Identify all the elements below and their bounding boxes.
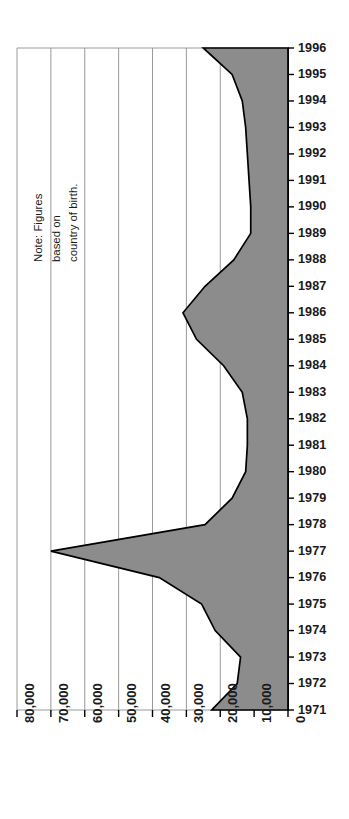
year-tick-label-1995: 1995 (298, 68, 326, 81)
value-tick-label-0: 0 (294, 716, 307, 723)
year-tick-label-1971: 1971 (298, 704, 326, 717)
year-tick-label-1980: 1980 (298, 465, 326, 478)
year-tick-label-1979: 1979 (298, 492, 326, 505)
year-tick-label-1996: 1996 (298, 42, 326, 55)
year-tick-label-1983: 1983 (298, 386, 326, 399)
year-tick-label-1972: 1972 (298, 677, 326, 690)
year-tick-label-1977: 1977 (298, 545, 326, 558)
value-tick-label-30000: 30,000 (192, 683, 205, 723)
year-tick-label-1988: 1988 (298, 253, 326, 266)
chart-container: Note: Figures based on country of birth.… (0, 0, 349, 819)
year-tick-label-1994: 1994 (298, 94, 326, 107)
year-tick-label-1993: 1993 (298, 121, 326, 134)
year-tick-label-1975: 1975 (298, 598, 326, 611)
year-tick-label-1991: 1991 (298, 174, 326, 187)
year-tick-label-1987: 1987 (298, 280, 326, 293)
value-tick-label-20000: 20,000 (226, 683, 239, 723)
value-tick-label-50000: 50,000 (125, 683, 138, 723)
value-tick-label-10000: 10,000 (260, 683, 273, 723)
year-tick-label-1976: 1976 (298, 571, 326, 584)
year-tick-label-1973: 1973 (298, 651, 326, 664)
year-tick-label-1989: 1989 (298, 227, 326, 240)
value-tick-label-60000: 60,000 (91, 683, 104, 723)
year-tick-label-1984: 1984 (298, 359, 326, 372)
value-tick-label-70000: 70,000 (57, 683, 70, 723)
year-tick-label-1992: 1992 (298, 147, 326, 160)
value-tick-label-80000: 80,000 (23, 683, 36, 723)
year-tick-label-1978: 1978 (298, 518, 326, 531)
year-tick-label-1985: 1985 (298, 333, 326, 346)
year-tick-label-1982: 1982 (298, 412, 326, 425)
year-tick-label-1974: 1974 (298, 624, 326, 637)
year-tick-label-1990: 1990 (298, 200, 326, 213)
year-tick-label-1981: 1981 (298, 439, 326, 452)
data-area-series-immigrants (51, 48, 288, 710)
year-tick-label-1986: 1986 (298, 306, 326, 319)
value-tick-label-40000: 40,000 (159, 683, 172, 723)
chart-note: Note: Figures based on country of birth. (30, 102, 83, 262)
